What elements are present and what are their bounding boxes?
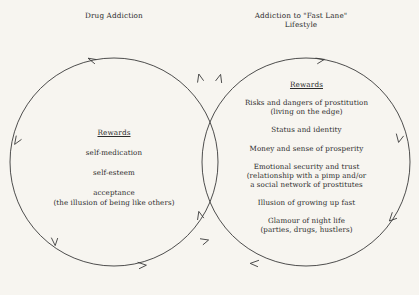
right-item-6-sub: (parties, drugs, hustlers) (210, 225, 403, 234)
right-circle-arrow-bottom (250, 260, 258, 266)
diagram-canvas: Drug Addiction Addiction to "Fast Lane" … (0, 0, 419, 295)
left-circle-content: Rewards self-medication self-esteem acce… (14, 128, 214, 207)
left-item-1-main: self-medication (86, 148, 142, 157)
right-item-4-main: Emotional security and trust (254, 162, 360, 171)
right-rewards-heading-holder: Rewards (210, 80, 403, 89)
left-rewards-heading-holder: Rewards (14, 128, 214, 137)
heading-right-line2: Lifestyle (226, 20, 376, 29)
left-item-3: acceptance (the illusion of being like o… (14, 188, 214, 206)
heading-left-circle: Drug Addiction (39, 11, 189, 20)
left-rewards-label: Rewards (97, 128, 130, 137)
upper-intersection-arrow-left (198, 74, 204, 82)
right-item-4: Emotional security and trust (relationsh… (210, 162, 403, 189)
right-item-6: Glamour of night life (parties, drugs, h… (210, 216, 403, 234)
left-item-3-sub: (the illusion of being like others) (14, 198, 214, 207)
left-item-1: self-medication (14, 148, 214, 157)
heading-right-circle: Addiction to "Fast Lane" Lifestyle (226, 11, 376, 30)
lower-intersection-arrow-right (200, 239, 208, 245)
right-item-1: Risks and dangers of prostitution (livin… (210, 98, 403, 116)
right-item-4-sub2: a social network of prostitutes (210, 180, 403, 189)
right-item-1-main: Risks and dangers of prostitution (245, 98, 368, 107)
left-item-2-main: self-esteem (93, 168, 135, 177)
right-item-6-main: Glamour of night life (268, 216, 345, 225)
left-item-2: self-esteem (14, 168, 214, 177)
left-circle-arrow-lower-left (52, 238, 58, 246)
right-item-2-main: Status and identity (271, 125, 341, 134)
right-item-2: Status and identity (210, 125, 403, 134)
left-item-3-main: acceptance (93, 188, 135, 197)
right-item-5-main: Illusion of growing up fast (258, 198, 355, 207)
right-item-4-sub: (relationship with a pimp and/or (210, 171, 403, 180)
heading-right-line1: Addiction to "Fast Lane" (226, 11, 376, 20)
right-item-3: Money and sense of prosperity (210, 144, 403, 153)
right-item-1-sub: (living on the edge) (210, 107, 403, 116)
right-item-5: Illusion of growing up fast (210, 198, 403, 207)
heading-left-line1: Drug Addiction (39, 11, 189, 20)
right-rewards-label: Rewards (290, 80, 323, 89)
right-circle-content: Rewards Risks and dangers of prostitutio… (210, 80, 403, 234)
right-item-3-main: Money and sense of prosperity (250, 144, 364, 153)
